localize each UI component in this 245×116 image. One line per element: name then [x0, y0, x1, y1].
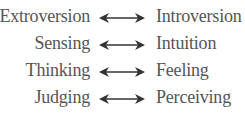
- double-arrow-icon: [99, 13, 145, 23]
- double-arrow-icon: [99, 67, 145, 77]
- left-trait: Judging: [34, 87, 90, 108]
- right-trait: Introversion: [156, 6, 242, 27]
- right-trait: Feeling: [156, 60, 209, 81]
- left-trait: Thinking: [26, 60, 90, 81]
- left-trait: Extroversion: [0, 6, 90, 27]
- left-trait: Sensing: [34, 33, 90, 54]
- pair-row: Extroversion Introversion: [0, 4, 245, 28]
- pair-row: Judging Perceiving: [0, 85, 245, 109]
- pair-row: Sensing Intuition: [0, 31, 245, 55]
- double-arrow-icon: [99, 94, 145, 104]
- right-trait: Perceiving: [156, 87, 231, 108]
- double-arrow-icon: [99, 40, 145, 50]
- right-trait: Intuition: [156, 33, 216, 54]
- pair-row: Thinking Feeling: [0, 58, 245, 82]
